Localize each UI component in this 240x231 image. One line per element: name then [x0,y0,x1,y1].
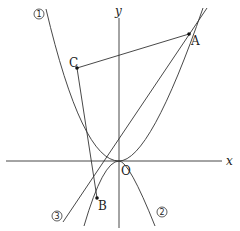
svg-text:1: 1 [37,10,42,19]
diagram-canvas: x y O A B C 1 2 3 [0,0,240,231]
curve-1-marker: 1 [34,9,44,19]
y-axis-label: y [114,4,122,18]
svg-text:2: 2 [160,208,165,217]
point-C-label: C [69,56,78,70]
point-A-label: A [190,34,200,48]
curve-2-marker: 2 [157,207,167,217]
curve-1 [46,8,203,161]
curve-2 [84,161,155,226]
x-axis-label: x [226,154,233,168]
svg-text:3: 3 [55,212,60,221]
line-3-marker: 3 [52,211,62,221]
segment-CA [77,34,189,68]
segment-CB [77,68,97,198]
point-B-label: B [98,199,107,213]
